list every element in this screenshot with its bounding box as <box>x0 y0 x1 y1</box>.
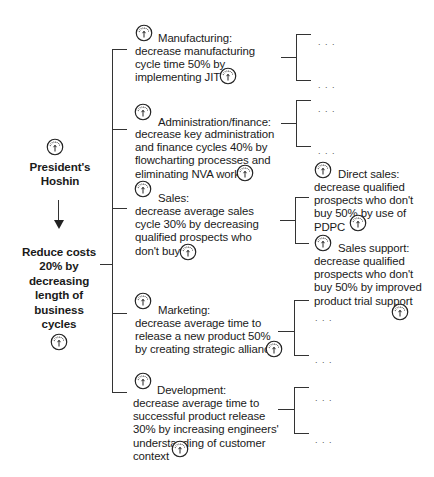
gauge-icon <box>46 138 64 156</box>
main-bracket <box>112 49 113 393</box>
ellipsis-icon: . . . <box>315 314 333 323</box>
branch-heading-development: Development: <box>157 384 226 397</box>
sub-connector <box>281 57 297 58</box>
branch-heading-manufacturing: Manufacturing: <box>158 32 232 45</box>
root-title: President's Hoshin <box>20 160 100 189</box>
sub-bracket <box>294 300 295 356</box>
sub-bracket <box>295 197 296 244</box>
sub-heading-sales-support: Sales support: <box>338 242 409 255</box>
sub-arm <box>295 197 309 198</box>
gauge-icon <box>134 180 152 198</box>
gauge-icon <box>391 303 409 321</box>
sub-bracket <box>296 100 297 147</box>
sub-bracket <box>296 34 297 81</box>
gauge-icon <box>50 333 68 351</box>
gauge-icon <box>236 164 254 182</box>
sub-arm <box>295 243 309 244</box>
sub-heading-direct-sales: Direct sales: <box>338 168 399 181</box>
branch-body-development: decrease average time to successful prod… <box>133 397 279 463</box>
arrow-head <box>54 220 64 229</box>
gauge-icon <box>219 67 237 85</box>
gauge-icon <box>134 292 152 310</box>
branch-connector <box>112 208 127 209</box>
sub-arm <box>296 100 311 101</box>
gauge-icon <box>134 372 152 390</box>
branch-heading-marketing: Marketing: <box>158 304 210 317</box>
sub-body-sales-support: decrease qualified prospects who don't b… <box>314 255 422 308</box>
sub-arm <box>294 387 309 388</box>
gauge-icon <box>134 103 152 121</box>
gauge-icon <box>314 234 332 252</box>
ellipsis-icon: . . . <box>318 38 336 47</box>
sub-bracket <box>294 387 295 434</box>
ellipsis-icon: . . . <box>318 147 336 156</box>
sub-arm <box>296 80 311 81</box>
sub-arm <box>294 300 309 301</box>
branch-connector <box>112 392 127 393</box>
sub-arm <box>294 433 309 434</box>
branch-connector <box>112 49 127 50</box>
sub-connector <box>281 123 297 124</box>
gauge-icon <box>314 161 332 179</box>
root-goal: Reduce costs 20% by decreasing length of… <box>14 245 104 331</box>
sub-connector <box>278 409 295 410</box>
sub-connector <box>280 220 296 221</box>
ellipsis-icon: . . . <box>315 436 333 445</box>
gauge-icon <box>135 24 153 42</box>
gauge-icon <box>179 243 197 261</box>
sub-arm <box>296 34 311 35</box>
ellipsis-icon: . . . <box>315 356 333 365</box>
branch-body-marketing: decrease average time to release a new p… <box>135 317 281 357</box>
sub-arm <box>294 355 309 356</box>
gauge-icon <box>265 340 283 358</box>
branch-connector <box>112 313 127 314</box>
ellipsis-icon: . . . <box>318 81 336 90</box>
gauge-icon <box>171 440 189 458</box>
ellipsis-icon: . . . <box>318 105 336 114</box>
ellipsis-icon: . . . <box>315 394 333 403</box>
sub-connector <box>278 331 295 332</box>
branch-connector <box>112 129 127 130</box>
arrow-down-icon <box>58 200 59 222</box>
branch-heading-sales: Sales: <box>158 192 189 205</box>
gauge-icon <box>349 214 367 232</box>
sub-arm <box>296 146 311 147</box>
branch-body-manufacturing: decrease manufacturing cycle time 50% by… <box>135 45 255 85</box>
